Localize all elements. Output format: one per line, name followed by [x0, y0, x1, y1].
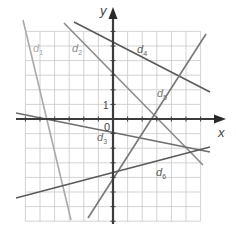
y-axis-arrow-icon	[109, 7, 118, 19]
label-d1: d1	[33, 42, 43, 56]
label-d5: d5	[157, 87, 167, 101]
x-axis-arrow-icon	[214, 115, 226, 124]
coordinate-plane: x y 0 1 d1d2d3d4d5d6	[0, 0, 236, 231]
label-d3: d3	[97, 131, 107, 145]
label-d4: d4	[137, 43, 147, 57]
y-axis-label: y	[99, 3, 108, 18]
line-d2	[64, 23, 203, 165]
unit-label-y: 1	[103, 100, 109, 111]
label-d6: d6	[156, 166, 166, 180]
axes: x y 0 1	[16, 3, 226, 224]
line-labels: d1d2d3d4d5d6	[33, 42, 167, 180]
origin-label: 0	[104, 121, 110, 133]
x-axis-label: x	[217, 125, 225, 140]
label-d2: d2	[72, 42, 82, 56]
